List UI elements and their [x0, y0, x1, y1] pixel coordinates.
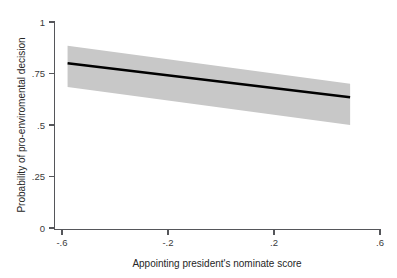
- y-axis-tick-labels: 1 .75 .5 .25 0: [32, 17, 45, 234]
- x-tick-label-pos02: .2: [270, 237, 278, 248]
- confidence-interval-band: [68, 46, 351, 125]
- y-axis-title: Probability of pro-enviromental decision: [16, 37, 27, 212]
- x-tick-label-neg06: -.6: [56, 237, 67, 248]
- chart-figure: 1 .75 .5 .25 0 -.6 -.2 .2 .6 Appointing …: [0, 0, 397, 278]
- x-axis-title: Appointing president's nominate score: [132, 258, 302, 269]
- x-axis-ticks: [62, 230, 380, 236]
- x-axis-tick-labels: -.6 -.2 .2 .6: [56, 237, 384, 248]
- x-tick-label-neg02: -.2: [162, 237, 173, 248]
- y-tick-label-025: .25: [32, 171, 45, 182]
- x-tick-label-pos06: .6: [376, 237, 384, 248]
- line-chart-canvas: 1 .75 .5 .25 0 -.6 -.2 .2 .6 Appointing …: [0, 0, 397, 278]
- y-axis-ticks: [49, 22, 55, 228]
- y-tick-label-0: 0: [40, 223, 45, 234]
- y-tick-label-075: .75: [32, 68, 45, 79]
- y-tick-label-1: 1: [40, 17, 45, 28]
- y-tick-label-05: .5: [37, 120, 45, 131]
